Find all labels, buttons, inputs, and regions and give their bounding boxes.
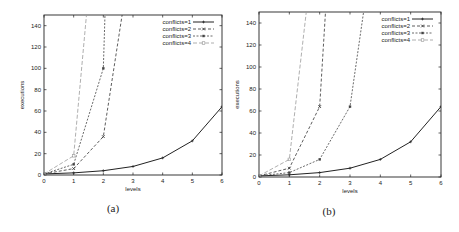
y-tick-label: 0 bbox=[38, 172, 42, 178]
y-axis-label: executions bbox=[19, 81, 25, 110]
series-line bbox=[43, 0, 105, 175]
legend-entry-label: conflicts=1 bbox=[162, 19, 191, 25]
y-tick-label: 140 bbox=[31, 23, 42, 29]
y-tick-label: 20 bbox=[249, 152, 256, 158]
y-tick-label: 0 bbox=[253, 174, 257, 180]
y-tick-label: 60 bbox=[249, 108, 256, 114]
legend-entry-label: conflicts=4 bbox=[162, 40, 191, 46]
legend-entry-label: conflicts=4 bbox=[381, 37, 410, 43]
series-line bbox=[258, 0, 382, 177]
legend: conflicts=1conflicts=2conflicts=3conflic… bbox=[162, 19, 214, 46]
x-axis-label: levels bbox=[125, 186, 140, 192]
x-tick-label: 4 bbox=[379, 180, 383, 186]
x-tick-label: 5 bbox=[409, 180, 413, 186]
y-tick-label: 80 bbox=[249, 86, 256, 92]
series-line bbox=[258, 0, 321, 177]
x-tick-label: 3 bbox=[348, 180, 352, 186]
x-tick-label: 5 bbox=[191, 178, 195, 184]
series-line bbox=[43, 105, 224, 175]
chart-panel-a: 0123456020406080100120140levelsexecution… bbox=[19, 0, 224, 215]
legend-entry-label: conflicts=2 bbox=[162, 26, 191, 32]
y-tick-label: 120 bbox=[31, 44, 42, 50]
y-tick-label: 20 bbox=[34, 151, 41, 157]
x-tick-label: 0 bbox=[42, 178, 46, 184]
panel-caption: (b) bbox=[323, 205, 336, 218]
x-tick-label: 2 bbox=[318, 180, 322, 186]
y-tick-label: 100 bbox=[31, 65, 42, 71]
x-tick-label: 6 bbox=[439, 180, 443, 186]
series-line bbox=[258, 105, 443, 177]
x-tick-label: 1 bbox=[288, 180, 292, 186]
y-tick-label: 40 bbox=[249, 130, 256, 136]
x-axis-label: levels bbox=[342, 188, 357, 194]
y-tick-label: 100 bbox=[246, 64, 257, 70]
panel-caption: (a) bbox=[107, 202, 120, 215]
legend-entry-label: conflicts=1 bbox=[381, 16, 410, 22]
legend-entry-label: conflicts=3 bbox=[162, 33, 191, 39]
y-tick-label: 40 bbox=[34, 129, 41, 135]
x-tick-label: 2 bbox=[102, 178, 106, 184]
chart-panel-b: 0123456020406080100120140levelsexecution… bbox=[234, 0, 443, 218]
x-tick-label: 4 bbox=[161, 178, 165, 184]
plot-frame bbox=[44, 15, 222, 175]
legend: conflicts=1conflicts=2conflicts=3conflic… bbox=[381, 16, 433, 43]
y-axis-label: executions bbox=[234, 80, 240, 109]
y-tick-label: 120 bbox=[246, 42, 257, 48]
y-tick-label: 80 bbox=[34, 87, 41, 93]
legend-entry-label: conflicts=2 bbox=[381, 23, 410, 29]
y-tick-label: 140 bbox=[246, 20, 257, 26]
x-tick-label: 3 bbox=[131, 178, 135, 184]
x-tick-label: 6 bbox=[220, 178, 224, 184]
figure: 0123456020406080100120140levelsexecution… bbox=[0, 0, 459, 232]
plot-frame bbox=[259, 12, 441, 177]
x-tick-label: 0 bbox=[257, 180, 261, 186]
legend-entry-label: conflicts=3 bbox=[381, 30, 410, 36]
y-tick-label: 60 bbox=[34, 108, 41, 114]
series-line bbox=[43, 0, 135, 175]
x-tick-label: 1 bbox=[72, 178, 76, 184]
